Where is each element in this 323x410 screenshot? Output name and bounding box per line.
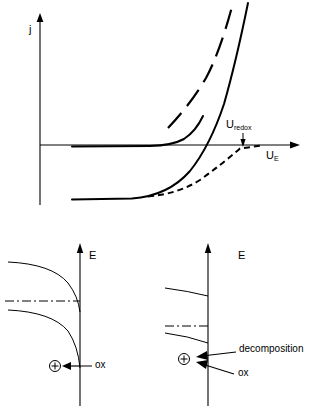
x-axis-label: UE (266, 150, 279, 161)
y-axis-arrowhead (37, 13, 44, 22)
right-conduction-band (165, 288, 208, 296)
cathodic-solid-curve (72, 3, 248, 200)
right-decomposition-label: decomposition (239, 344, 303, 354)
u-redox-label: Uredox (226, 119, 251, 130)
left-energy-axis-label: E (89, 250, 96, 261)
anodic-solid-curve (72, 116, 203, 147)
left-valence-band (8, 310, 80, 368)
short-dashed-curve (148, 146, 262, 197)
band-diagram-strong-bending (0, 228, 163, 410)
y-axis-label: j (29, 24, 31, 35)
right-energy-axis-label: E (238, 250, 245, 261)
u-redox-tick-arrow (240, 139, 245, 147)
current-potential-plot (0, 0, 323, 220)
left-conduction-band (8, 262, 80, 312)
right-ox-label: ox (238, 368, 249, 378)
right-decomposition-arrowhead (196, 351, 208, 360)
right-ox-arrowhead (196, 360, 208, 369)
right-ox-arrow-shaft (202, 364, 234, 374)
right-valence-band (165, 333, 208, 343)
x-axis-arrowhead (290, 141, 300, 148)
left-ox-label: ox (95, 360, 106, 370)
left-energy-axis-arrowhead (77, 243, 83, 253)
figure-root: j UE Uredox E ox (0, 0, 323, 410)
right-energy-axis-arrowhead (205, 243, 211, 253)
left-ox-arrowhead (62, 362, 71, 370)
